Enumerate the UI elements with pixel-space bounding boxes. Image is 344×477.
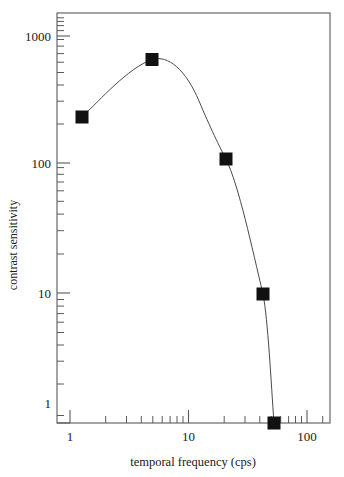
y-axis-title: contrast sensitivity xyxy=(6,200,20,290)
chart-figure: 1000 100 10 1 1 10 100 temporal frequenc… xyxy=(0,0,344,477)
x-axis-title: temporal frequency (cps) xyxy=(130,455,256,469)
y-tick-label-1: 1 xyxy=(45,396,52,411)
x-tick-label-1: 1 xyxy=(67,429,74,444)
data-markers xyxy=(76,53,281,430)
x-tick-label-10: 10 xyxy=(182,429,195,444)
data-curve xyxy=(82,59,274,423)
data-point xyxy=(146,53,159,66)
y-tick-label-10: 10 xyxy=(38,286,51,301)
contrast-sensitivity-chart: 1000 100 10 1 1 10 100 temporal frequenc… xyxy=(0,0,344,477)
y-tick-label-1000: 1000 xyxy=(25,29,51,44)
x-axis-ticks xyxy=(70,410,323,423)
y-axis-ticks xyxy=(57,18,70,423)
plot-frame xyxy=(57,13,330,423)
y-tick-label-100: 100 xyxy=(32,156,52,171)
data-point xyxy=(257,288,270,301)
data-point xyxy=(76,111,89,124)
data-point xyxy=(268,417,281,430)
x-tick-label-100: 100 xyxy=(297,429,317,444)
data-point xyxy=(220,153,233,166)
